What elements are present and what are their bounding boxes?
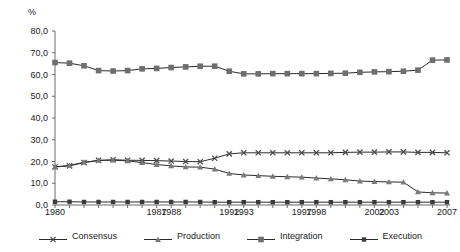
data-point-square [357,70,363,76]
data-point-square [183,64,189,70]
data-point-filled-square [242,200,246,204]
data-point-filled-square [416,200,420,204]
data-point-square [255,71,261,77]
data-point-filled-square [430,200,434,204]
data-point-square [444,57,450,63]
x-tick-label: 1998 [306,208,326,217]
legend-item-integration[interactable]: Integration [246,231,323,242]
data-point-filled-square [445,200,449,204]
data-point-square [67,60,73,66]
data-point-square [110,68,116,74]
x-tick-label: 2007 [437,208,457,217]
data-point-filled-square [387,200,391,204]
data-point-square [96,68,102,74]
data-point-filled-square [213,200,217,204]
legend-item-consensus[interactable]: Consensus [38,231,117,242]
data-point-filled-square [271,200,275,204]
data-point-filled-square [183,200,187,204]
chart-legend: ConsensusProductionIntegrationExecution [0,228,460,244]
legend-label: Production [177,232,220,241]
data-point-square [299,71,305,77]
legend-label: Consensus [72,232,117,241]
data-point-filled-square [154,200,158,204]
data-point-filled-square [67,200,71,204]
data-point-square [52,60,58,66]
data-point-filled-square [96,200,100,204]
x-tick-label: 1988 [161,208,181,217]
data-point-square [415,67,421,73]
data-point-filled-square [125,200,129,204]
data-point-square [430,57,436,63]
series-production [52,157,450,195]
data-point-filled-square [198,200,202,204]
data-point-square [372,69,378,75]
data-point-filled-square [169,200,173,204]
data-point-square [386,69,392,75]
data-point-square [284,71,290,77]
data-point-filled-square [361,237,365,241]
x-axis-tick-labels: 1980198719881992199319971998200220032007 [0,208,460,222]
legend-marker-square-icon [246,231,276,242]
data-point-square [343,70,349,76]
data-point-filled-square [343,200,347,204]
legend-marker-filled-square-icon [349,231,379,242]
line-chart: % 80,070,060,050,040,030,020,010,00,0 19… [0,0,460,252]
data-point-square [125,68,131,74]
x-tick-label: 1993 [234,208,254,217]
data-point-filled-square [300,200,304,204]
data-point-filled-square [111,200,115,204]
data-point-square [314,71,320,77]
data-point-filled-square [314,200,318,204]
data-point-square [154,66,160,72]
data-point-square [212,63,218,69]
data-point-filled-square [285,200,289,204]
legend-marker-triangle-icon [143,231,173,242]
data-point-filled-square [329,200,333,204]
data-point-square [328,71,334,77]
data-point-square [241,71,247,77]
data-point-filled-square [358,200,362,204]
data-point-filled-square [256,200,260,204]
data-point-square [168,65,174,71]
data-point-square [270,71,276,77]
legend-item-production[interactable]: Production [143,231,220,242]
legend-marker-x-icon [38,231,68,242]
data-point-filled-square [82,200,86,204]
data-point-filled-square [372,200,376,204]
x-tick-label: 1980 [45,208,65,217]
series-execution [53,200,449,205]
data-point-filled-square [227,200,231,204]
data-point-square [226,68,232,74]
legend-label: Integration [280,232,323,241]
data-point-filled-square [53,200,57,204]
x-tick-label: 2003 [379,208,399,217]
data-point-filled-square [140,200,144,204]
data-point-square [401,68,407,74]
data-point-square [81,63,87,69]
legend-label: Execution [383,232,423,241]
data-point-square [197,63,203,69]
legend-item-execution[interactable]: Execution [349,231,423,242]
data-point-square [258,236,264,242]
data-point-square [139,66,145,72]
series-integration [52,57,450,77]
data-point-filled-square [401,200,405,204]
